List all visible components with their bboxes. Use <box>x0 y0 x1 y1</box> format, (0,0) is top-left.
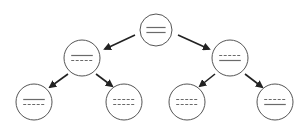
node-root <box>140 14 172 46</box>
arrow-mid-left-to-leaf-2 <box>96 74 112 86</box>
node-circle <box>257 84 293 120</box>
node-leaf-1 <box>16 84 52 120</box>
arrow-mid-left-to-leaf-1 <box>50 74 68 87</box>
node-circle <box>106 84 142 120</box>
node-leaf-2 <box>106 84 142 120</box>
node-leaf-3 <box>169 84 205 120</box>
node-circle <box>169 84 205 120</box>
arrow-root-to-mid-right <box>178 35 209 49</box>
arrow-root-to-mid-left <box>105 35 135 49</box>
node-mid-right <box>212 40 248 76</box>
node-mid-left <box>64 40 100 76</box>
nodes-group <box>16 14 293 120</box>
node-leaf-4 <box>257 84 293 120</box>
node-circle <box>212 40 248 76</box>
arrow-mid-right-to-leaf-4 <box>245 74 262 87</box>
arrow-mid-right-to-leaf-3 <box>200 74 215 86</box>
tree-diagram <box>0 0 306 133</box>
node-circle <box>64 40 100 76</box>
node-circle <box>16 84 52 120</box>
node-circle <box>140 14 172 46</box>
